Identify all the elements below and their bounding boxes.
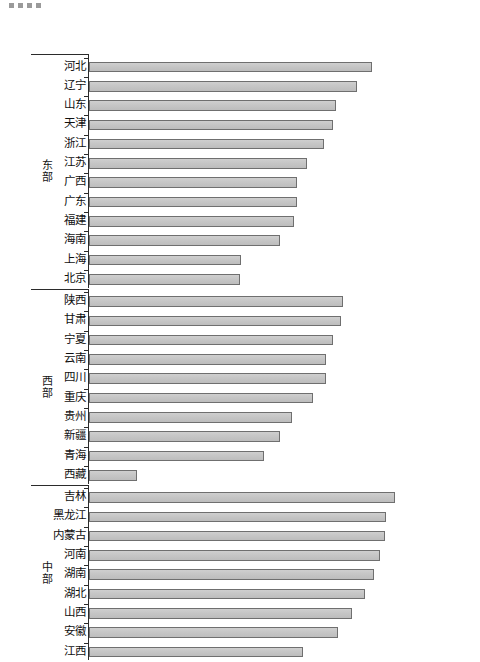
category-label: 上海	[64, 252, 86, 267]
bar	[89, 470, 137, 481]
category-label: 河北	[64, 59, 86, 74]
bar	[89, 81, 357, 92]
group-label-2: 西部	[38, 376, 56, 400]
group-label-3: 中部	[38, 562, 56, 586]
chart-row: 贵州	[0, 408, 480, 427]
bar	[89, 296, 343, 307]
bar	[89, 316, 341, 327]
chart-row: 宁夏	[0, 331, 480, 350]
bar	[89, 335, 333, 346]
group-label-char: 西	[38, 376, 56, 388]
category-label: 广西	[64, 174, 86, 189]
chart-row: 湖南	[0, 565, 480, 584]
bar	[89, 451, 264, 462]
group-divider-1	[31, 54, 89, 55]
chart-row: 江苏	[0, 154, 480, 173]
bar	[89, 120, 333, 131]
chart-row: 湖北	[0, 585, 480, 604]
bar	[89, 197, 297, 208]
chart-row: 天津	[0, 115, 480, 134]
chart-row: 青海	[0, 447, 480, 466]
category-label: 四川	[64, 370, 86, 385]
category-label: 辽宁	[64, 78, 86, 93]
category-label: 西藏	[64, 467, 86, 482]
chart-row: 河北	[0, 58, 480, 77]
group-label-char: 部	[38, 388, 56, 400]
group-label-char: 部	[38, 172, 56, 184]
chart-row: 四川	[0, 369, 480, 388]
bar	[89, 62, 372, 73]
category-label: 重庆	[64, 390, 86, 405]
chart-row: 江西	[0, 643, 480, 662]
bar	[89, 255, 241, 266]
category-label: 新疆	[64, 428, 86, 443]
category-label: 内蒙古	[53, 528, 86, 543]
category-label: 江西	[64, 644, 86, 659]
chart-row: 甘肃	[0, 311, 480, 330]
category-label: 陕西	[64, 293, 86, 308]
chart-row: 河南	[0, 546, 480, 565]
bar	[89, 274, 240, 285]
bar	[89, 608, 352, 619]
chart-row: 广西	[0, 173, 480, 192]
category-label: 贵州	[64, 409, 86, 424]
chart-row: 上海	[0, 251, 480, 270]
chart-row: 辽宁	[0, 77, 480, 96]
category-label: 江苏	[64, 155, 86, 170]
group-label-char: 部	[38, 574, 56, 586]
bar	[89, 158, 307, 169]
axis-line-3	[88, 485, 89, 661]
category-label: 山西	[64, 605, 86, 620]
category-label: 山东	[64, 97, 86, 112]
bar	[89, 492, 395, 503]
chart-row: 山东	[0, 96, 480, 115]
chart-row: 北京	[0, 270, 480, 289]
group-label-1: 东部	[38, 160, 56, 184]
category-label: 吉林	[64, 489, 86, 504]
bar	[89, 235, 280, 246]
category-label: 黑龙江	[53, 508, 86, 523]
category-label: 浙江	[64, 136, 86, 151]
bar	[89, 550, 380, 561]
chart-row: 福建	[0, 212, 480, 231]
bar	[89, 216, 294, 227]
category-label: 甘肃	[64, 312, 86, 327]
chart-row: 安徽	[0, 623, 480, 642]
chart-row: 云南	[0, 350, 480, 369]
chart-row: 重庆	[0, 389, 480, 408]
category-label: 河南	[64, 547, 86, 562]
category-label: 海南	[64, 232, 86, 247]
chart-row: 陕西	[0, 292, 480, 311]
category-label: 安徽	[64, 624, 86, 639]
axis-line-2	[88, 289, 89, 484]
category-label: 青海	[64, 448, 86, 463]
bar	[89, 431, 280, 442]
group-divider-2	[31, 289, 89, 290]
category-label: 福建	[64, 213, 86, 228]
bar	[89, 531, 385, 542]
bar	[89, 139, 324, 150]
bar	[89, 647, 303, 658]
chart-row: 海南	[0, 231, 480, 250]
category-label: 云南	[64, 351, 86, 366]
chart-row: 吉林	[0, 488, 480, 507]
bar	[89, 512, 386, 523]
category-label: 天津	[64, 116, 86, 131]
bar	[89, 373, 326, 384]
bar	[89, 627, 338, 638]
group-divider-3	[31, 485, 89, 486]
chart-row: 西藏	[0, 466, 480, 485]
chart-row: 山西	[0, 604, 480, 623]
axis-line-1	[88, 54, 89, 288]
bar	[89, 177, 297, 188]
bar	[89, 589, 365, 600]
bar	[89, 393, 313, 404]
bar	[89, 569, 374, 580]
chart-row: 浙江	[0, 135, 480, 154]
bar	[89, 354, 326, 365]
category-label: 宁夏	[64, 332, 86, 347]
category-label: 北京	[64, 271, 86, 286]
chart-row: 广东	[0, 193, 480, 212]
bar	[89, 412, 292, 423]
